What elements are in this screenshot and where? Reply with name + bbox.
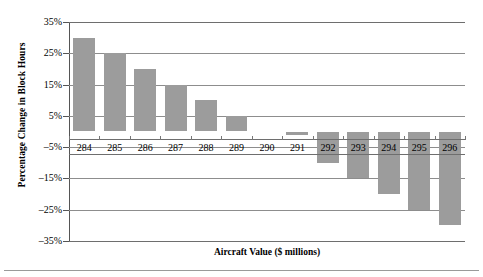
x-axis-tick-mark	[404, 136, 405, 140]
bar	[226, 116, 248, 132]
x-axis-label-band: 284285286287288289290291292293294295296	[69, 139, 465, 155]
x-axis-tick-label: 285	[99, 140, 129, 156]
bar	[165, 85, 187, 132]
y-axis-tick-label: –15%	[22, 173, 62, 183]
x-axis-title: Aircraft Value ($ millions)	[69, 247, 465, 257]
y-axis-tick-label: –5%	[22, 142, 62, 152]
bar-chart-figure: Percentage Change in Block Hours 35%25%1…	[0, 0, 483, 277]
footer-rule	[4, 270, 479, 271]
gridline	[69, 241, 465, 242]
x-axis-tick-mark	[69, 136, 70, 140]
x-axis-tick-label: 293	[343, 140, 373, 156]
bar	[134, 69, 156, 132]
x-axis-tick-mark	[191, 136, 192, 140]
x-axis-tick-label: 296	[435, 140, 465, 156]
bar	[286, 132, 308, 135]
bar	[195, 100, 217, 131]
x-axis-tick-label: 284	[69, 140, 99, 156]
y-axis-tick-label: 15%	[22, 80, 62, 90]
y-axis-tick-label: 25%	[22, 48, 62, 58]
x-axis-tick-mark	[282, 136, 283, 140]
x-axis-tick-mark	[252, 136, 253, 140]
x-axis-tick-label: 290	[252, 140, 282, 156]
x-axis-tick-label: 288	[191, 140, 221, 156]
y-axis-tick-label: –35%	[22, 236, 62, 246]
x-axis-tick-label: 295	[404, 140, 434, 156]
x-axis-tick-mark	[99, 136, 100, 140]
bar	[73, 38, 95, 132]
x-axis-tick-mark	[313, 136, 314, 140]
x-axis-tick-label: 287	[160, 140, 190, 156]
x-axis-tick-mark	[374, 136, 375, 140]
x-axis-tick-mark	[465, 136, 466, 140]
x-axis-tick-mark	[435, 136, 436, 140]
y-axis-tick-label: 5%	[22, 111, 62, 121]
y-axis-tick-label: 35%	[22, 17, 62, 27]
x-axis-tick-label: 291	[282, 140, 312, 156]
x-axis-tick-label: 289	[221, 140, 251, 156]
x-axis-tick-mark	[160, 136, 161, 140]
x-axis-tick-label: 286	[130, 140, 160, 156]
bar-series	[69, 22, 465, 241]
x-axis-tick-label: 292	[313, 140, 343, 156]
x-axis-tick-mark	[343, 136, 344, 140]
bar	[104, 53, 126, 131]
y-axis-tick-label: –25%	[22, 205, 62, 215]
x-axis-tick-mark	[221, 136, 222, 140]
x-axis-tick-label: 294	[374, 140, 404, 156]
y-axis-tick-mark	[63, 241, 69, 242]
x-axis-tick-mark	[130, 136, 131, 140]
